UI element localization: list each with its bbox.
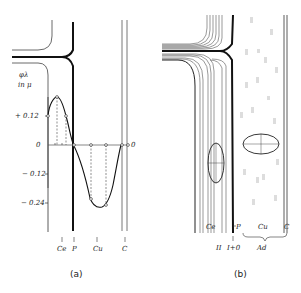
region-label-ce: Ce — [206, 223, 216, 231]
bottom-label-ii: II — [215, 244, 222, 252]
upper-wall-line — [12, 20, 52, 50]
thick-wall-top — [162, 15, 233, 51]
caption-a: (a) — [70, 269, 83, 279]
ellipse-cu — [243, 134, 279, 154]
panel-b: Ce P Cu C II I+0 Ad (b) — [162, 15, 290, 279]
ellipse-ce — [208, 143, 224, 183]
bottom-label-ad: Ad — [256, 244, 267, 252]
region-label-cu: Cu — [258, 223, 268, 231]
region-label-c: C — [284, 223, 290, 231]
phase-curve — [48, 97, 121, 207]
right-zero-label: 0 — [131, 141, 136, 149]
y-tick-012: + 0.12 — [15, 112, 39, 120]
outer-wall-line — [162, 60, 195, 233]
birefringence-diagram: φλ in μ + 0.12 0 − 0.12 − 0.24 0 — [0, 0, 301, 293]
y-tick-neg024: − 0.24 — [21, 199, 45, 207]
panel-a: φλ in μ + 0.12 0 − 0.12 − 0.24 0 — [12, 20, 136, 279]
region-label-p: P — [235, 223, 241, 231]
y-label-line1: φλ — [19, 71, 28, 79]
thick-wall-top — [12, 22, 73, 57]
region-label-cu: Cu — [93, 245, 103, 253]
bottom-label-i0: I+0 — [226, 244, 241, 252]
cytoplasm-hatches — [240, 18, 279, 204]
lower-fan-lines — [162, 54, 226, 233]
ad-brace — [243, 233, 287, 241]
region-label-c: C — [122, 245, 128, 253]
thick-wall-p — [62, 57, 73, 231]
region-label-p: P — [71, 245, 77, 253]
region-label-ce: Ce — [57, 245, 67, 253]
y-label-line2: in μ — [18, 81, 32, 89]
caption-b: (b) — [234, 269, 247, 279]
upper-fan-lines — [162, 15, 222, 49]
y-tick-0: 0 — [36, 141, 41, 149]
y-tick-neg012: − 0.12 — [22, 170, 46, 178]
